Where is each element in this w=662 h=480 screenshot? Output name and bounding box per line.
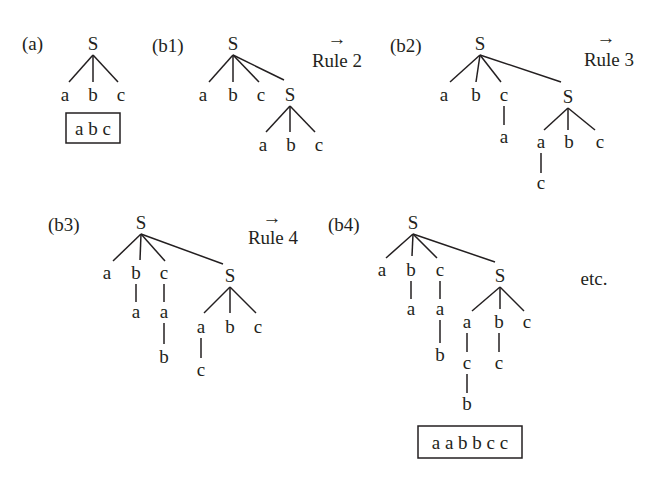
edge	[544, 108, 568, 130]
node-c: c	[160, 262, 168, 283]
arrow-icon: →	[597, 27, 616, 48]
node-b: b	[406, 259, 416, 280]
sub-leaf-b: b	[286, 134, 296, 155]
panel-b2: (b2) S a b c S a a b c c → Rule 3	[390, 27, 634, 193]
sub-leaf-c: c	[315, 134, 323, 155]
node-a: a	[103, 262, 112, 283]
node-s: S	[285, 84, 296, 105]
node-c: c	[257, 84, 265, 105]
edge	[113, 234, 141, 261]
leaf-c: c	[117, 84, 125, 105]
root-s: S	[88, 33, 99, 54]
edge	[209, 55, 233, 82]
node-b: b	[131, 262, 141, 283]
node-a: a	[440, 84, 449, 105]
node-a: a	[436, 298, 445, 319]
node-c: c	[436, 259, 444, 280]
panel-b4: (b4) S a b c S a a b a b c c b c a a b b…	[328, 212, 607, 458]
node-s: S	[495, 265, 506, 286]
sub-node-c: c	[596, 131, 604, 152]
node-a: a	[132, 301, 141, 322]
panel-a: (a) S a b c a b c	[22, 33, 125, 143]
node-a: a	[407, 298, 416, 319]
node-c: c	[463, 352, 471, 373]
edge	[266, 106, 290, 132]
leaf-a: a	[61, 84, 70, 105]
panel-a-label: (a)	[22, 33, 43, 55]
edge	[413, 234, 495, 262]
result-string: a b c	[75, 118, 111, 139]
etc-label: etc.	[581, 268, 608, 289]
edge	[204, 287, 230, 313]
panel-b2-label: (b2)	[390, 35, 422, 57]
arrow-icon: →	[328, 28, 347, 49]
edge	[69, 55, 93, 82]
edge	[230, 287, 256, 313]
node-a: a	[378, 259, 387, 280]
node-c: c	[537, 172, 545, 193]
rule-label: Rule 3	[584, 49, 634, 70]
root-s: S	[228, 33, 239, 54]
panel-b1-label: (b1)	[152, 35, 184, 57]
panel-b4-label: (b4)	[328, 214, 360, 236]
sub-node-b: b	[494, 311, 504, 332]
node-c: c	[197, 359, 205, 380]
sub-leaf-a: a	[259, 134, 268, 155]
rule-label: Rule 4	[248, 227, 299, 248]
leaf-b: b	[88, 84, 98, 105]
edge	[290, 106, 315, 132]
edge	[500, 287, 524, 311]
root-s: S	[136, 212, 147, 233]
node-a: a	[160, 301, 169, 322]
node-s: S	[563, 86, 574, 107]
sub-node-c: c	[523, 311, 531, 332]
sub-node-b: b	[564, 131, 574, 152]
edge	[568, 108, 595, 130]
panel-b3: (b3) S a b c S a a b a b c c → Rule 4	[48, 207, 299, 380]
edge	[233, 55, 259, 82]
edge	[472, 287, 500, 311]
node-b: b	[462, 393, 472, 414]
edge	[93, 55, 118, 82]
root-s: S	[408, 212, 419, 233]
edge	[233, 55, 284, 80]
sub-node-a: a	[537, 131, 546, 152]
node-c: c	[495, 352, 503, 373]
sub-node-b: b	[225, 316, 235, 337]
edge	[480, 55, 561, 82]
node-s: S	[225, 265, 236, 286]
derivation-tree-diagram: (a) S a b c a b c (b1) S a b c S a b c →…	[0, 0, 662, 480]
node-c: c	[500, 84, 508, 105]
edge	[386, 234, 413, 258]
arrow-icon: →	[263, 207, 282, 228]
node-b: b	[228, 84, 238, 105]
root-s: S	[475, 33, 486, 54]
node-b: b	[159, 346, 169, 367]
result-string: a a b b c c	[432, 432, 508, 453]
rule-label: Rule 2	[312, 50, 362, 71]
node-b: b	[471, 84, 481, 105]
edge	[140, 234, 141, 260]
node-b: b	[435, 344, 445, 365]
edge	[141, 234, 223, 264]
panel-b1: (b1) S a b c S a b c → Rule 2	[152, 28, 362, 155]
node-a: a	[199, 84, 208, 105]
panel-b3-label: (b3)	[48, 214, 80, 236]
edge	[412, 234, 413, 256]
sub-node-a: a	[197, 316, 206, 337]
sub-node-c: c	[254, 316, 262, 337]
sub-node-a: a	[463, 311, 472, 332]
edge	[450, 55, 480, 82]
node-a: a	[500, 126, 509, 147]
